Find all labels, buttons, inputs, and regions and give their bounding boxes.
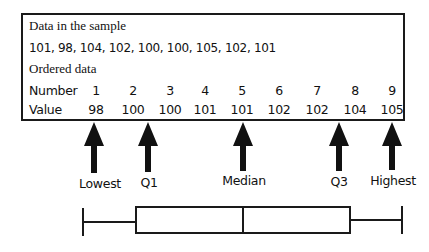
median-label: Median [222, 174, 266, 188]
arrow-q1-icon [138, 122, 158, 172]
arrow-median-icon [233, 122, 253, 171]
arrows-and-boxplot [0, 0, 429, 252]
box-plot [83, 206, 402, 236]
arrow-highest-icon [382, 122, 402, 170]
lowest-label: Lowest [79, 177, 121, 191]
highest-label: Highest [370, 174, 416, 188]
q3-label: Q3 [330, 175, 347, 189]
arrow-lowest-icon [84, 122, 104, 173]
arrow-q3-icon [329, 122, 349, 171]
up-arrow-icons [84, 122, 402, 173]
q1-label: Q1 [140, 176, 157, 190]
